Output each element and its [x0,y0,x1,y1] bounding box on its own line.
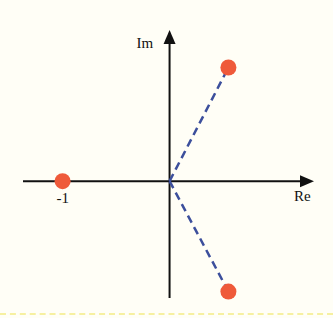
dashed-segment [170,181,229,291]
point-marker [220,60,236,76]
dashed-segments [170,68,229,292]
diagram-frame: Re Im -1 [0,0,333,318]
imaginary-axis-label: Im [137,35,154,51]
point-marker [55,173,71,189]
point-labels: -1 [57,190,70,206]
axes: Re Im [23,30,314,298]
imaginary-axis-arrow-icon [164,30,176,44]
point-marker [220,284,236,300]
real-axis-arrow-icon [300,175,314,187]
point-label-minus-one: -1 [57,190,70,206]
real-axis-label: Re [294,188,311,204]
complex-plane-plot: Re Im -1 [0,0,333,318]
points [55,60,237,300]
dashed-segment [170,68,229,182]
dashed-bottom-border [0,313,333,315]
